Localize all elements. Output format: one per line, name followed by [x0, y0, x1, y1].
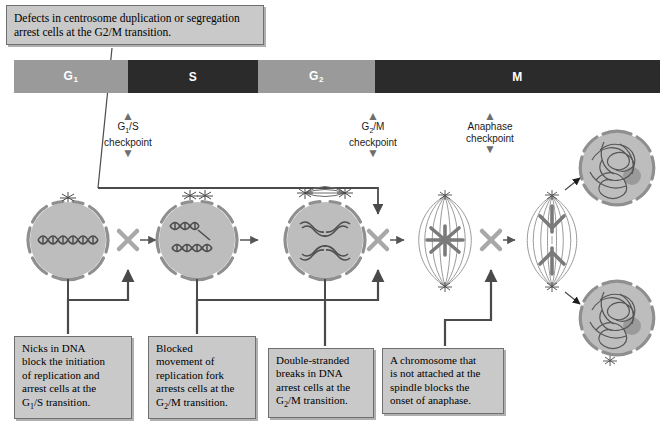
cell-stems [68, 279, 325, 300]
caption-line: Double-stranded [276, 354, 349, 366]
checkpoint-g2-m-label: G2/Mcheckpoint [349, 121, 397, 148]
arrow-to-top-daughter [565, 178, 580, 190]
caption-line: of replication and [22, 369, 100, 381]
caption-line: spindle blocks the [390, 381, 469, 393]
anaphase-cell-art [527, 190, 577, 292]
arrow-down-icon: ▼ [318, 149, 428, 158]
arrow-up-icon: ▲ [435, 112, 545, 121]
phase-segment-m[interactable]: M [375, 60, 660, 93]
daughter-cell-bottom-art [580, 281, 653, 366]
caption-nicks-in-dna: Nicks in DNA block the initiation of rep… [14, 336, 132, 419]
caption-line: G2/M transition. [276, 394, 348, 406]
checkpoint-g1-s-label: G1/Scheckpoint [104, 121, 152, 148]
caption-line: Nicks in DNA [22, 342, 86, 354]
caption-line: movement of [156, 355, 214, 367]
phase-label-m: M [512, 70, 523, 84]
caption-connectors [68, 270, 491, 346]
caption-line: breaks in DNA [276, 367, 343, 379]
s-cell-art [157, 190, 237, 280]
caption-unattached-chromosome: A chromosome that is not attached at the… [382, 348, 504, 414]
phase-label-g2: G2 [309, 69, 324, 84]
caption-blocked-replication-fork: Blocked movement of replication fork arr… [148, 336, 256, 419]
caption-line: G1/S transition. [22, 396, 90, 408]
caption-line: is not attached at the [390, 367, 480, 379]
arrow-up-icon: ▲ [318, 112, 428, 121]
phase-segment-g1[interactable]: G1 [14, 60, 128, 93]
g1-cell-art [28, 192, 108, 280]
phase-segment-s[interactable]: S [128, 60, 258, 93]
caption-line: A chromosome that [390, 354, 476, 366]
checkpoint-g1-s[interactable]: ▲ G1/Scheckpoint ▼ [73, 112, 183, 158]
caption-line: Blocked [156, 342, 193, 354]
block-anaphase [482, 231, 500, 249]
checkpoint-g2-m[interactable]: ▲ G2/Mcheckpoint ▼ [318, 112, 428, 158]
cell-cycle-phase-bar: G1 S G2 M [14, 60, 660, 93]
arrow-to-bottom-daughter [565, 292, 580, 304]
g2-cell-art [285, 187, 365, 280]
caption-line: arrest cells at the [22, 382, 96, 394]
arrow-down-icon: ▼ [73, 149, 183, 158]
phase-segment-g2[interactable]: G2 [258, 60, 375, 93]
caption-line: arrest cells at the [276, 381, 350, 393]
checkpoint-anaphase[interactable]: ▲ Anaphasecheckpoint ▼ [435, 112, 545, 154]
arrow-up-icon: ▲ [73, 112, 183, 121]
arrow-down-icon: ▼ [435, 145, 545, 154]
caption-line: arrests cells at the [156, 382, 235, 394]
checkpoint-anaphase-label: Anaphasecheckpoint [466, 121, 514, 144]
caption-line: replication fork [156, 369, 224, 381]
caption-line: G2/M transition. [156, 396, 228, 408]
metaphase-cell-art [419, 190, 472, 292]
phase-label-g1: G1 [64, 69, 79, 84]
callout-box: Defects in centrosome duplication or seg… [6, 5, 264, 45]
block-g2-m [369, 231, 387, 249]
caption-line: onset of anaphase. [390, 394, 471, 406]
daughter-cell-top-art [580, 131, 653, 205]
caption-double-stranded-breaks: Double-stranded breaks in DNA arrest cel… [268, 348, 374, 418]
block-g1-s [119, 231, 137, 249]
phase-label-s: S [189, 70, 198, 84]
callout-text: Defects in centrosome duplication or seg… [14, 12, 240, 38]
caption-line: block the initiation [22, 355, 105, 367]
